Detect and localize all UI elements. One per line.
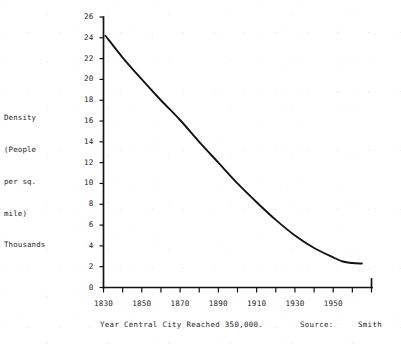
source-label: Source:	[300, 320, 334, 329]
axis-spines	[104, 17, 373, 288]
y-tick-label: 10	[68, 178, 94, 187]
x-tick-label: 1910	[240, 299, 274, 308]
y-axis-label: Density (People per sq. mile) Thousands	[4, 92, 76, 272]
x-tick-label: 1890	[201, 299, 235, 308]
y-tick-label: 0	[68, 283, 94, 292]
y-axis-label-line-3: per sq.	[4, 177, 76, 188]
y-tick-label: 14	[68, 137, 94, 146]
y-tick-label: 18	[68, 95, 94, 104]
x-tick-label: 1930	[278, 299, 312, 308]
x-tick-label: 1870	[163, 299, 197, 308]
y-axis-label-line-1: Density	[4, 113, 76, 124]
x-axis-caption: Year Central City Reached 350,000.	[100, 320, 263, 329]
data-series-line	[105, 36, 362, 264]
y-tick-label: 24	[68, 33, 94, 42]
y-axis-label-line-4: mile)	[4, 209, 76, 220]
source-value: Smith	[358, 320, 382, 329]
y-tick-label: 12	[68, 158, 94, 167]
y-tick-label: 4	[68, 241, 94, 250]
chart-figure: Density (People per sq. mile) Thousands …	[0, 0, 401, 346]
x-tick-label: 1830	[87, 299, 121, 308]
y-tick-label: 8	[68, 199, 94, 208]
y-axis-label-line-2: (People	[4, 145, 76, 156]
y-tick-label: 20	[68, 74, 94, 83]
y-tick-label: 22	[68, 54, 94, 63]
x-tick-label: 1850	[125, 299, 159, 308]
x-tick-label: 1950	[316, 299, 350, 308]
y-tick-label: 16	[68, 116, 94, 125]
y-tick-label: 6	[68, 220, 94, 229]
y-tick-label: 2	[68, 262, 94, 271]
y-tick-label: 26	[68, 12, 94, 21]
y-axis-label-line-5: Thousands	[4, 240, 76, 251]
